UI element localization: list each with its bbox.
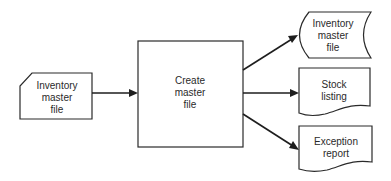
master-file-label-line-1: Inventory [312,18,353,29]
master-file-label-line-3: file [327,42,340,53]
input-label-line-2: master [42,92,73,103]
stock-listing-label-line-2: listing [321,91,347,102]
output-master-file-node: Inventory master file [300,12,372,58]
master-file-label-line-2: master [318,30,349,41]
stock-listing-label-line-1: Stock [321,79,347,90]
input-punched-card-node: Inventory master file [20,73,92,119]
input-label-line-3: file [51,104,64,115]
exception-report-label-line-1: Exception [314,136,358,147]
arrowhead-icon [288,35,298,43]
process-label-line-1: Create [175,75,205,86]
arrow-process-to-exception-report [243,114,299,150]
arrowhead-icon [290,89,299,97]
flowchart-canvas: Inventory master file Create master file… [0,0,391,181]
input-label-line-1: Inventory [36,80,77,91]
arrowhead-icon [289,141,299,150]
output-exception-report-node: Exception report [299,126,372,172]
arrowhead-icon [129,89,138,97]
arrow-input-to-process [92,89,138,97]
process-label-line-2: master [175,87,206,98]
arrow-process-to-master-file [243,35,298,70]
exception-report-label-line-2: report [323,148,349,159]
process-node: Create master file [138,41,243,147]
process-label-line-3: file [184,99,197,110]
arrow-process-to-stock-listing [243,89,299,97]
output-stock-listing-node: Stock listing [299,68,370,116]
